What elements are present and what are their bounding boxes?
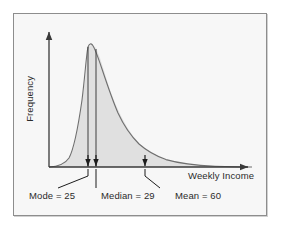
mean-leader-line	[145, 176, 160, 188]
mode-leader-line	[58, 176, 88, 188]
median-label: Median = 29	[101, 190, 155, 201]
x-axis-label: Weekly Income	[188, 170, 254, 181]
mean-label: Mean = 60	[175, 190, 221, 201]
mode-label: Mode = 25	[29, 190, 75, 201]
distribution-area	[49, 45, 252, 168]
figure-container: Frequency Weekly Income Mode = 25 Median…	[0, 0, 282, 228]
y-axis-label: Frequency	[24, 76, 35, 122]
